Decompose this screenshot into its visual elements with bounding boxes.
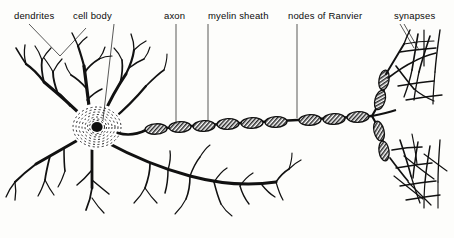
label-myelin-sheath: myelin sheath [208,10,269,21]
neuron-illustration [0,0,454,238]
nucleus [91,122,102,132]
dendrite-lower-middle [77,146,109,213]
dendrite-upper-left [16,45,84,118]
dendrite-lower-left [6,140,78,200]
label-cell-body: cell body [73,10,112,21]
cell-body-soma [72,104,122,150]
myelinated-axon [145,69,396,161]
label-synapses-text: synapses [394,10,435,21]
dendrite-lower-right-long [106,142,301,216]
myelin-segments [145,111,370,135]
label-myelin-sheath-text: myelin sheath [208,10,269,21]
dendrite-upper-right [104,34,150,114]
axon-terminal-branches [372,69,396,161]
synapse-web-lower [390,134,447,208]
neuron-diagram-figure: dendrites cell body axon myelin sheath n… [0,0,454,238]
label-cell-body-text: cell body [73,10,112,21]
leader-dendrites [29,24,86,56]
leader-synapses-a [400,24,414,48]
label-dendrites-text: dendrites [14,10,54,21]
label-nodes-of-ranvier: nodes of Ranvier [288,10,362,21]
label-axon-text: axon [164,10,185,21]
label-dendrites: dendrites [14,10,54,21]
label-synapses: synapses [394,10,435,21]
label-nodes-of-ranvier-text: nodes of Ranvier [288,10,362,21]
dendrite-far-upper-right [112,54,167,120]
axon-hillock [118,130,146,134]
label-axon: axon [164,10,185,21]
